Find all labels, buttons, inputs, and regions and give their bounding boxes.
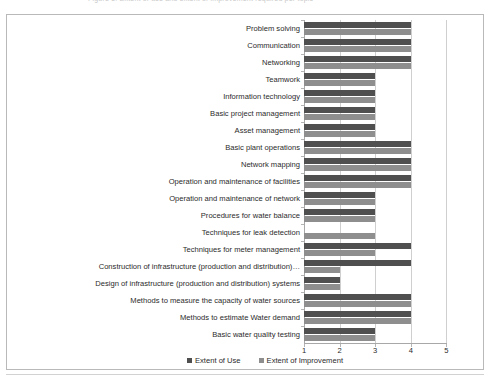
category-label: Basic plant operations <box>10 143 300 152</box>
category-tick <box>301 224 304 225</box>
x-tick-mark <box>411 344 412 347</box>
category-label: Methods to measure the capacity of water… <box>10 296 300 305</box>
bar-extent-of-improvement <box>304 318 411 324</box>
legend-label: Extent of Use <box>195 356 241 365</box>
bar-extent-of-improvement <box>304 46 411 52</box>
category-tick <box>301 309 304 310</box>
bar-extent-of-use <box>304 56 411 62</box>
category-label: Basic water quality testing <box>10 330 300 339</box>
bar-extent-of-improvement <box>304 97 375 103</box>
bar-extent-of-improvement <box>304 182 411 188</box>
x-tick-label: 4 <box>401 346 421 355</box>
bar-extent-of-use <box>304 158 411 164</box>
bar-extent-of-improvement <box>304 63 411 69</box>
category-label: Operation and maintenance of network <box>10 194 300 203</box>
bar-extent-of-use <box>304 141 411 147</box>
x-tick-mark <box>340 344 341 347</box>
bar-extent-of-use <box>304 107 375 113</box>
square-swatch-icon <box>259 358 264 363</box>
figure-frame: Problem solvingCommunicationNetworkingTe… <box>6 14 484 370</box>
category-label: Teamwork <box>10 75 300 84</box>
bar-chart: Problem solvingCommunicationNetworkingTe… <box>7 15 485 371</box>
category-tick <box>301 54 304 55</box>
bar-extent-of-use <box>304 243 411 249</box>
category-label: Basic project management <box>10 109 300 118</box>
gridline-x-5 <box>446 20 447 343</box>
bar-extent-of-improvement <box>304 301 411 307</box>
category-label: Network mapping <box>10 160 300 169</box>
legend-item: Extent of Improvement <box>259 356 343 365</box>
x-tick-label: 1 <box>294 346 314 355</box>
gridline-x-4 <box>411 20 412 343</box>
category-tick <box>301 173 304 174</box>
category-tick <box>301 37 304 38</box>
category-tick <box>301 88 304 89</box>
category-label: Operation and maintenance of facilities <box>10 177 300 186</box>
category-label: Techniques for leak detection <box>10 228 300 237</box>
bar-extent-of-improvement <box>304 148 411 154</box>
bar-extent-of-use <box>304 294 411 300</box>
category-tick <box>301 275 304 276</box>
bar-extent-of-use <box>304 73 375 79</box>
bar-extent-of-use <box>304 175 411 181</box>
x-tick-label: 3 <box>365 346 385 355</box>
x-tick-label: 5 <box>436 346 456 355</box>
x-tick-mark <box>304 344 305 347</box>
category-tick <box>301 190 304 191</box>
category-label: Techniques for meter management <box>10 245 300 254</box>
figure-caption-strip: Figure 5: Extent of use and extent of im… <box>0 0 492 13</box>
bar-extent-of-improvement <box>304 131 375 137</box>
bar-extent-of-use <box>304 22 411 28</box>
category-tick <box>301 207 304 208</box>
category-label: Problem solving <box>10 24 300 33</box>
category-label: Procedures for water balance <box>10 211 300 220</box>
x-tick-mark <box>446 344 447 347</box>
category-tick <box>301 71 304 72</box>
category-label: Networking <box>10 58 300 67</box>
category-tick <box>301 292 304 293</box>
category-label: Methods to estimate Water demand <box>10 313 300 322</box>
category-tick <box>301 20 304 21</box>
bar-extent-of-use <box>304 277 340 283</box>
x-tick-label: 2 <box>330 346 350 355</box>
category-label: Information technology <box>10 92 300 101</box>
bar-extent-of-use <box>304 311 411 317</box>
x-tick-mark <box>375 344 376 347</box>
bar-extent-of-improvement <box>304 233 375 239</box>
bar-extent-of-use <box>304 192 375 198</box>
figure-caption: Figure 5: Extent of use and extent of im… <box>88 0 313 2</box>
bar-extent-of-use <box>304 39 411 45</box>
category-label: Asset management <box>10 126 300 135</box>
bar-extent-of-improvement <box>304 335 375 341</box>
square-swatch-icon <box>187 358 192 363</box>
category-tick <box>301 139 304 140</box>
legend-item: Extent of Use <box>187 356 241 365</box>
bar-extent-of-use <box>304 124 375 130</box>
legend-label: Extent of Improvement <box>267 356 343 365</box>
bar-extent-of-use <box>304 260 411 266</box>
category-label: Design of infrastructure (production and… <box>10 279 300 288</box>
bar-extent-of-improvement <box>304 165 411 171</box>
bar-extent-of-use <box>304 209 375 215</box>
category-tick <box>301 105 304 106</box>
bar-extent-of-improvement <box>304 267 340 273</box>
bar-extent-of-improvement <box>304 29 411 35</box>
bar-extent-of-use <box>304 90 375 96</box>
category-tick <box>301 122 304 123</box>
bar-extent-of-improvement <box>304 199 375 205</box>
category-tick <box>301 326 304 327</box>
bar-extent-of-improvement <box>304 250 375 256</box>
chart-legend: Extent of UseExtent of Improvement <box>187 356 343 365</box>
bar-extent-of-improvement <box>304 216 375 222</box>
bar-extent-of-improvement <box>304 80 375 86</box>
category-tick <box>301 241 304 242</box>
page-bottom-rule <box>6 374 484 375</box>
category-label: Communication <box>10 41 300 50</box>
bar-extent-of-improvement <box>304 284 340 290</box>
category-tick <box>301 258 304 259</box>
bar-extent-of-use <box>304 328 375 334</box>
category-label: Construction of infrastructure (producti… <box>10 262 300 271</box>
bar-extent-of-improvement <box>304 114 375 120</box>
category-tick <box>301 156 304 157</box>
